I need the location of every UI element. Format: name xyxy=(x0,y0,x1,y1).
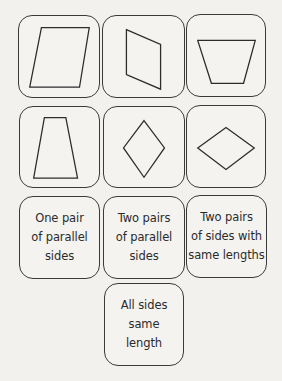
label-line: All sides xyxy=(121,296,168,315)
shape-card-trapezoid[interactable] xyxy=(19,106,100,188)
label-line: length xyxy=(126,334,162,353)
label-line: same xyxy=(129,315,160,334)
label-line: of parallel xyxy=(116,228,172,247)
label-line: of sides with xyxy=(191,227,262,246)
label-line: One pair xyxy=(35,209,84,228)
label-line: same lengths xyxy=(188,246,264,265)
vertical-parallelogram-icon xyxy=(103,16,184,97)
tall-rhombus-icon xyxy=(104,107,184,187)
parallelogram-icon xyxy=(19,16,99,97)
label-line: Two pairs xyxy=(200,208,253,227)
label-card-two-pairs-parallel[interactable]: Two pairs of parallel sides xyxy=(103,196,185,279)
label-card-all-sides-same[interactable]: All sides same length xyxy=(104,283,184,366)
label-line: sides xyxy=(45,247,74,266)
trapezoid-icon xyxy=(20,107,99,187)
label-line: of parallel xyxy=(31,228,87,247)
label-line: sides xyxy=(129,247,158,266)
label-card-one-pair-parallel[interactable]: One pair of parallel sides xyxy=(19,196,100,279)
shape-card-wide-rhombus[interactable] xyxy=(186,105,266,188)
inverted-trapezoid-icon xyxy=(187,15,265,96)
shape-card-tall-rhombus[interactable] xyxy=(103,106,185,188)
shape-card-parallelogram-vertical[interactable] xyxy=(102,15,185,98)
shape-card-inverted-trapezoid[interactable] xyxy=(186,14,266,97)
shape-card-parallelogram[interactable] xyxy=(18,15,100,98)
label-line: Two pairs xyxy=(118,209,171,228)
label-card-two-pairs-same-length[interactable]: Two pairs of sides with same lengths xyxy=(186,195,267,278)
wide-rhombus-icon xyxy=(187,106,265,187)
